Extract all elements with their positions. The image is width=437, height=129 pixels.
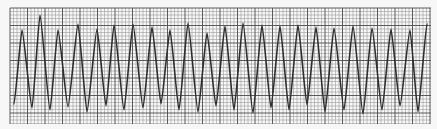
ecg-strip (0, 0, 437, 129)
ecg-grid-and-trace (0, 0, 437, 129)
